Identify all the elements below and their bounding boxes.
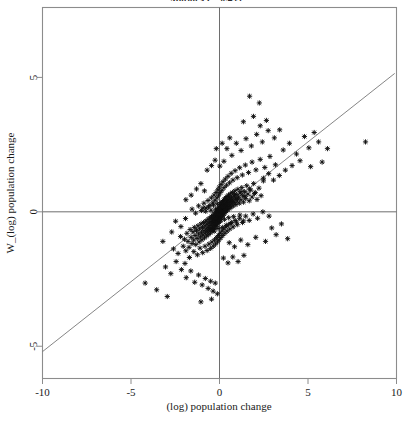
y-tick-label: -5: [28, 341, 40, 351]
moran-scatterplot-figure: Moran's I = 0.433 -10-50510 50-5 (log) p…: [0, 0, 412, 423]
x-axis-label: (log) population change: [166, 400, 271, 413]
scatter-plot-canvas: -10-50510 50-5 (log) population change W…: [0, 0, 412, 423]
y-tick-label: 5: [28, 74, 40, 80]
x-tick-label: 0: [217, 386, 223, 398]
x-tick-label: 10: [391, 386, 403, 398]
y-axis-label: W_(log) population change: [4, 132, 17, 253]
y-tick-label: 0: [28, 209, 40, 215]
x-axis-ticks: -10-50510: [35, 379, 402, 398]
y-axis-ticks: 50-5: [28, 74, 43, 351]
x-tick-label: -5: [126, 386, 136, 398]
x-tick-label: -10: [35, 386, 50, 398]
x-tick-label: 5: [305, 386, 311, 398]
